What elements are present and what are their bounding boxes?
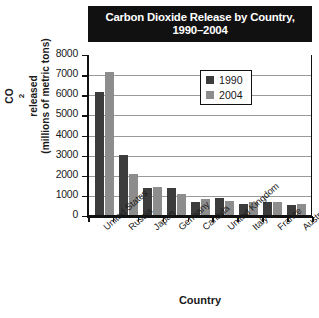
chart-title: Carbon Dioxide Release by Country, 1990–… (88, 6, 312, 42)
x-axis-tick (88, 217, 90, 222)
bar-japan-2004 (153, 187, 162, 215)
chart-title-line-1: Carbon Dioxide Release by Country, (105, 11, 294, 24)
legend-swatch-1990 (206, 76, 214, 84)
y-axis-title-line-2: (millions of metric tons) (40, 16, 52, 176)
chart-figure: Carbon Dioxide Release by Country, 1990–… (0, 0, 319, 318)
y-axis-tick (82, 95, 88, 96)
y-axis-tick-label: 7000 (56, 68, 78, 79)
y-axis-tick-label: 1000 (56, 189, 78, 200)
y-axis-title-released: released (28, 16, 40, 176)
y-axis-tick (82, 55, 88, 56)
y-axis-tick-label: 2000 (56, 169, 78, 180)
bar-france-2004 (273, 202, 282, 215)
y-axis-title-subscript: 2 (16, 16, 28, 176)
bar-group (93, 55, 117, 215)
y-axis-tick-label: 3000 (56, 149, 78, 160)
y-axis-tick-label: 8000 (56, 48, 78, 59)
legend-item-1990: 1990 (206, 74, 243, 86)
legend-label-1990: 1990 (219, 74, 243, 86)
y-axis-tick-label: 6000 (56, 88, 78, 99)
legend-swatch-2004 (206, 91, 214, 99)
y-axis-tick (82, 115, 88, 116)
bar-group (284, 55, 308, 215)
x-axis-title: Country (88, 294, 312, 306)
y-axis-tick (82, 136, 88, 137)
y-axis-title-co: CO (4, 16, 16, 176)
chart-legend: 19902004 (200, 70, 252, 105)
y-axis-title: CO2 released (millions of metric tons) (4, 16, 52, 176)
y-axis-tick (82, 196, 88, 197)
bar-united-states-1990 (95, 92, 104, 215)
y-axis-tick (82, 75, 88, 76)
y-axis-tick (82, 176, 88, 177)
y-axis-tick-label: 4000 (56, 129, 78, 140)
chart-title-line-2: 1990–2004 (172, 24, 227, 37)
bar-germany-2004 (177, 194, 186, 215)
bar-group (165, 55, 189, 215)
y-axis-tick-label: 0 (72, 209, 78, 220)
y-axis-title-line-1: CO2 released (4, 16, 40, 176)
legend-label-2004: 2004 (219, 89, 243, 101)
y-axis-tick-label: 5000 (56, 108, 78, 119)
bar-united-states-2004 (105, 72, 114, 215)
y-axis-tick (82, 156, 88, 157)
legend-item-2004: 2004 (206, 89, 243, 101)
